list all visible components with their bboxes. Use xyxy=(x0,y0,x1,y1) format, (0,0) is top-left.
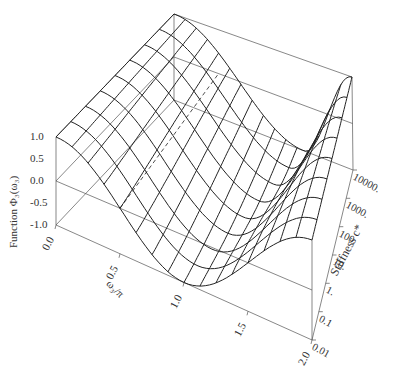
z-tick-label: -0.5 xyxy=(30,197,47,208)
z-tick-label: 0.5 xyxy=(30,153,44,164)
plot-box-back xyxy=(56,14,353,340)
surface-plot xyxy=(0,0,393,370)
z-tick-label: -1.0 xyxy=(30,219,47,230)
z-tick-label: 0.0 xyxy=(30,175,44,186)
z-axis-title: Function Φ₃(ω₃) xyxy=(8,176,19,248)
z-tick-label: 1.0 xyxy=(30,131,44,142)
